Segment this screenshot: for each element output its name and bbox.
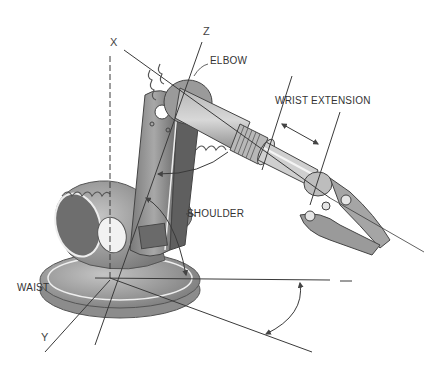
wrist-extension-arrow	[282, 124, 318, 144]
elbow-label: ELBOW	[210, 56, 247, 66]
z-axis-label: Z	[203, 26, 210, 37]
robot-arm-diagram: X Z Y ELBOW WRIST EXTENSION SHOULDER WAI…	[0, 0, 444, 370]
wrist-extension-label: WRIST EXTENSION	[275, 96, 371, 106]
y-axis-label: Y	[41, 332, 49, 343]
shoulder-label: SHOULDER	[187, 209, 244, 219]
waist-label: WAIST	[17, 283, 49, 293]
waist-rotation-arc	[266, 283, 301, 334]
gripper	[300, 172, 390, 255]
x-axis-label: X	[110, 37, 118, 48]
